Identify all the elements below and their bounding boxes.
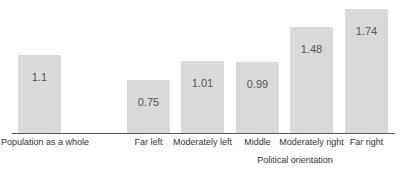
bar-value-label: 1.1 <box>18 71 61 83</box>
bar: 1.48 <box>290 27 333 133</box>
bar: 1.74 <box>345 9 388 133</box>
x-tick-label: Far left <box>134 137 162 147</box>
bar: 0.75 <box>127 80 170 133</box>
bar-value-label: 1.01 <box>181 77 224 89</box>
bar-value-label: 0.99 <box>236 78 279 90</box>
x-axis-title: Political orientation <box>257 155 333 165</box>
x-tick-label: Moderately left <box>173 137 232 147</box>
bar-value-label: 0.75 <box>127 96 170 108</box>
bar: 1.1 <box>18 55 61 133</box>
x-tick-label: Population as a whole <box>1 137 89 147</box>
x-tick-label: Far right <box>350 137 384 147</box>
x-tick-label: Moderately right <box>279 137 344 147</box>
x-tick-label: Middle <box>244 137 271 147</box>
bar-value-label: 1.48 <box>290 43 333 55</box>
bar: 0.99 <box>236 62 279 133</box>
x-axis-line <box>12 133 395 134</box>
bar-value-label: 1.74 <box>345 25 388 37</box>
bar: 1.01 <box>181 61 224 133</box>
bar-chart: Political orientation 1.1Population as a… <box>0 0 405 173</box>
